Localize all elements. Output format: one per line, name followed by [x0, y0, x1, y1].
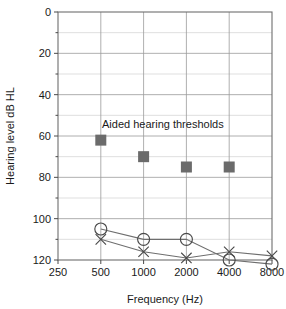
marker-square-aided — [224, 162, 235, 173]
y-tick-label: 80 — [39, 171, 51, 183]
y-axis-ticks — [54, 12, 58, 260]
x-tick-label: 2000 — [174, 266, 198, 278]
x-tick-label: 250 — [49, 266, 67, 278]
marker-square-aided — [138, 151, 149, 162]
x-tick-label: 8000 — [260, 266, 284, 278]
audiogram-svg: 020406080100120 2505001000200040008000 F… — [0, 0, 286, 309]
x-tick-label: 4000 — [217, 266, 241, 278]
y-axis-title: Hearing level dB HL — [4, 87, 16, 185]
x-axis-title: Frequency (Hz) — [127, 293, 203, 305]
audiogram-chart: 020406080100120 2505001000200040008000 F… — [0, 0, 286, 309]
y-tick-label: 20 — [39, 47, 51, 59]
y-tick-label: 60 — [39, 130, 51, 142]
y-tick-label: 40 — [39, 89, 51, 101]
annotation-aided-hearing-thresholds: Aided hearing thresholds — [102, 118, 224, 130]
grid-major-horizontal — [58, 53, 272, 218]
x-axis-tick-labels: 2505001000200040008000 — [49, 266, 284, 278]
x-tick-label: 500 — [92, 266, 110, 278]
y-tick-label: 0 — [45, 6, 51, 18]
x-tick-label: 1000 — [131, 266, 155, 278]
y-tick-label: 120 — [33, 254, 51, 266]
marker-square-aided — [95, 135, 106, 146]
y-axis-tick-labels: 020406080100120 — [33, 6, 51, 266]
marker-square-aided — [181, 162, 192, 173]
y-tick-label: 100 — [33, 213, 51, 225]
